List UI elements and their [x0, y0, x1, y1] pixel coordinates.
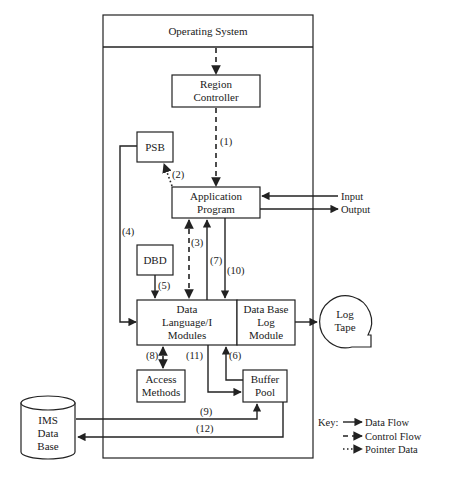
dl1-modules-label-1: Data	[177, 303, 198, 315]
edge-1-label: (1)	[220, 136, 233, 148]
dbd-label: DBD	[143, 254, 166, 266]
edge-3-label: (3)	[191, 237, 204, 249]
dl1-modules-node: Data Language/I Modules	[137, 300, 237, 345]
dl1-modules-label-3: Modules	[168, 329, 207, 341]
edge-10-label: (10)	[227, 265, 245, 277]
edge-7-label: (7)	[210, 255, 223, 267]
edge-11-label: (11)	[186, 350, 204, 362]
log-module-label-2: Log	[257, 316, 275, 328]
legend-data-flow-label: Data Flow	[365, 417, 409, 428]
edge-8-label: (8)	[146, 350, 159, 362]
buffer-pool-label-2: Pool	[255, 386, 275, 398]
application-program-node: Application Program	[172, 187, 260, 218]
region-controller-label-2: Controller	[193, 91, 239, 103]
buffer-pool-node: Buffer Pool	[243, 370, 287, 402]
log-tape-node: Log Tape	[320, 296, 372, 348]
output-label: Output	[341, 204, 370, 215]
log-module-label-1: Data Base	[244, 303, 289, 315]
log-tape-label-2: Tape	[334, 321, 355, 333]
access-methods-node: Access Methods	[137, 370, 185, 402]
dl1-modules-label-2: Language/I	[162, 316, 212, 328]
buffer-pool-label-1: Buffer	[251, 373, 280, 385]
application-program-label-1: Application	[190, 190, 242, 202]
input-label: Input	[341, 191, 363, 202]
edge-6-label: (6)	[229, 350, 242, 362]
ims-database-label-2: Data	[38, 427, 59, 439]
legend-control-flow-label: Control Flow	[365, 431, 422, 442]
ims-database-node: IMS Data Base	[21, 396, 75, 459]
edge-2-label: (2)	[172, 169, 185, 181]
legend-title: Key:	[318, 417, 338, 428]
region-controller-node: Region Controller	[172, 75, 260, 107]
edge-5-label: (5)	[158, 280, 171, 292]
psb-node: PSB	[137, 132, 173, 162]
edge-12-label: (12)	[196, 423, 214, 435]
edge-9-label: (9)	[200, 406, 213, 418]
psb-label: PSB	[145, 141, 165, 153]
log-module-label-3: Module	[249, 329, 283, 341]
operating-system-title: Operating System	[168, 25, 248, 37]
ims-database-label-1: IMS	[38, 414, 58, 426]
ims-architecture-diagram: Operating System Region Controller PSB A…	[0, 0, 454, 477]
access-methods-label-2: Methods	[142, 386, 181, 398]
ims-database-label-3: Base	[37, 440, 59, 452]
legend-pointer-data-label: Pointer Data	[365, 444, 418, 455]
log-module-node: Data Base Log Module	[237, 300, 295, 345]
region-controller-label-1: Region	[200, 78, 232, 90]
log-tape-label-1: Log	[336, 308, 354, 320]
dbd-node: DBD	[137, 245, 173, 275]
legend: Key: Data Flow Control Flow Pointer Data	[318, 417, 422, 455]
access-methods-label-1: Access	[145, 373, 176, 385]
edge-4-label: (4)	[122, 226, 135, 238]
application-program-label-2: Program	[197, 203, 235, 215]
